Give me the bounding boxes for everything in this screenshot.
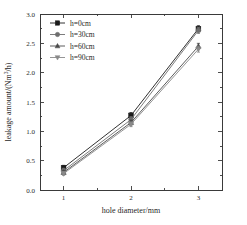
x-tick-label: 2 [129, 194, 133, 202]
y-axis-title-text: leakage amount/(Nm3/h) [3, 62, 13, 141]
legend: h=0cmh=30cmh=60cmh=90cm [50, 19, 95, 63]
y-axis-title-pre: leakage amount/(Nm [4, 73, 13, 141]
x-axis-title: hole diameter/mm [102, 206, 161, 215]
x-tick-label: 3 [197, 194, 201, 202]
legend-label-0: h=0cm [70, 19, 91, 28]
legend-label-2: h=60cm [70, 42, 95, 51]
marker-square [55, 21, 59, 25]
line-chart: 0.00.51.01.52.02.53.0123h=0cmh=30cmh=60c… [0, 0, 247, 225]
y-axis-title: leakage amount/(Nm3/h) [3, 62, 13, 141]
plot-frame [40, 14, 222, 190]
legend-label-1: h=30cm [70, 30, 95, 39]
y-tick-label: 0.5 [26, 157, 35, 165]
y-tick-label: 3.0 [26, 11, 35, 19]
y-axis-title-post: /h) [4, 62, 13, 71]
y-tick-label: 2.0 [26, 69, 35, 77]
series-line [64, 46, 199, 172]
marker-circle [55, 32, 59, 36]
x-tick-label: 1 [62, 194, 66, 202]
series-2 [61, 43, 201, 174]
y-tick-label: 2.5 [26, 40, 35, 48]
chart-figure: 0.00.51.01.52.02.53.0123h=0cmh=30cmh=60c… [0, 0, 247, 225]
legend-label-3: h=90cm [70, 53, 95, 62]
series-line [64, 30, 199, 170]
marker-circle [196, 28, 201, 33]
y-tick-label: 1.0 [26, 128, 35, 136]
y-tick-label: 0.0 [26, 187, 35, 195]
y-tick-label: 1.5 [26, 99, 35, 107]
